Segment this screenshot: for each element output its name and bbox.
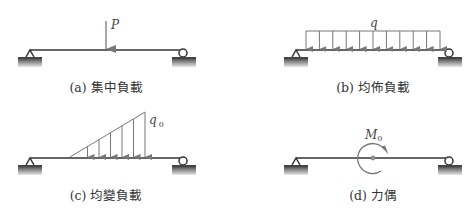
panel-a: P (a) 集中負載 xyxy=(18,18,196,95)
beam-loading-diagram: P (a) 集中負載 q (b) xyxy=(0,0,476,216)
caption-b: (b) 均佈負載 xyxy=(336,80,410,95)
pin-support-icon xyxy=(18,50,42,67)
load-label-q0: q0 xyxy=(149,113,164,129)
caption-c: (c) 均變負載 xyxy=(70,188,143,203)
roller-support-icon xyxy=(172,49,196,67)
roller-support-icon xyxy=(172,157,196,175)
caption-d: (d) 力偶 xyxy=(349,188,397,203)
load-label-p: P xyxy=(110,18,120,32)
load-label-q: q xyxy=(370,16,378,30)
uniform-load-icon xyxy=(306,31,440,49)
moment-label-m0: M0 xyxy=(364,128,382,143)
linearly-varying-load-icon xyxy=(70,112,145,157)
roller-support-icon xyxy=(438,49,462,67)
panel-b: q (b) 均佈負載 xyxy=(284,16,462,95)
pin-support-icon xyxy=(284,158,308,175)
roller-support-icon xyxy=(438,157,462,175)
pin-support-icon xyxy=(284,50,308,67)
caption-a: (a) 集中負載 xyxy=(69,80,142,95)
panel-c: q0 (c) 均變負載 xyxy=(18,112,196,203)
panel-d: M0 (d) 力偶 xyxy=(284,128,462,203)
pin-support-icon xyxy=(18,158,42,175)
